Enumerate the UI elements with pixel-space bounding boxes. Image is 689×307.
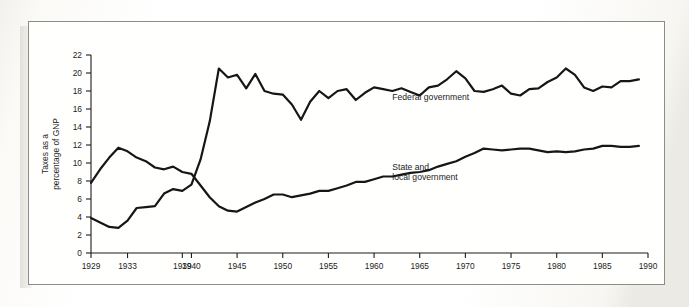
y-tick-label: 4 (77, 212, 82, 222)
series-line-1 (91, 146, 639, 212)
scanned-page: 0246810121416182022 Taxes as a percentag… (0, 0, 689, 307)
y-tick-label: 12 (73, 140, 83, 150)
x-tick-label: 1975 (502, 261, 521, 271)
y-tick-label: 18 (73, 86, 83, 96)
x-tick-label: 1960 (365, 261, 384, 271)
x-axis: 1929193319391940194519501955196019651970… (82, 253, 658, 271)
y-tick-group: 0246810121416182022 (73, 50, 91, 258)
y-tick-label: 16 (73, 104, 83, 114)
y-tick-label: 0 (77, 248, 82, 258)
y-tick-label: 22 (73, 50, 83, 60)
x-tick-label: 1940 (182, 261, 201, 271)
x-tick-label: 1950 (273, 261, 292, 271)
line-chart: 0246810121416182022 Taxes as a percentag… (0, 0, 689, 307)
x-tick-label: 1985 (593, 261, 612, 271)
data-series-group (91, 69, 639, 228)
x-tick-group: 1929193319391940194519501955196019651970… (82, 253, 658, 271)
series-label-0: Federal government (392, 92, 470, 102)
y-axis: 0246810121416182022 Taxes as a percentag… (40, 50, 91, 258)
y-tick-label: 2 (77, 230, 82, 240)
y-tick-label: 6 (77, 194, 82, 204)
series-line-0 (91, 69, 639, 228)
x-tick-label: 1980 (547, 261, 566, 271)
x-tick-label: 1970 (456, 261, 475, 271)
y-axis-label-line1: Taxes as a (40, 134, 50, 174)
x-tick-label: 1965 (410, 261, 429, 271)
x-tick-label: 1945 (228, 261, 247, 271)
x-tick-label: 1929 (82, 261, 101, 271)
y-tick-label: 8 (77, 176, 82, 186)
y-axis-label-line2: percentage of GNP (51, 118, 61, 190)
y-tick-label: 10 (73, 158, 83, 168)
x-tick-label: 1955 (319, 261, 338, 271)
y-tick-label: 14 (73, 122, 83, 132)
series-label-1: State and (392, 162, 429, 172)
y-tick-label: 20 (73, 68, 83, 78)
x-tick-label: 1990 (639, 261, 658, 271)
series-label-1-line2: local government (392, 172, 458, 182)
x-tick-label: 1933 (118, 261, 137, 271)
